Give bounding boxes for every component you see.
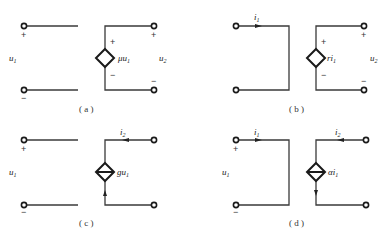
input-voltage-label: u1 — [9, 53, 17, 64]
output-voltage-label: u2 — [159, 53, 167, 64]
output-terminal-top — [363, 137, 368, 142]
panel-caption: ( c ) — [79, 218, 94, 228]
current-arrow-icon — [103, 190, 107, 196]
panel-caption: ( b ) — [289, 104, 304, 114]
source-label: gu1 — [117, 167, 129, 178]
panel-d: + − u1 i1 i2 αi1 ( d ) — [222, 127, 369, 228]
input-voltage-label: u1 — [222, 167, 230, 178]
dependent-voltage-source-icon — [96, 49, 114, 67]
output-terminal-bottom — [151, 87, 156, 92]
input-plus-sign: + — [21, 144, 26, 154]
input-terminal-top — [233, 137, 238, 142]
input-terminal-top — [21, 23, 26, 28]
output-terminal-bottom — [361, 87, 366, 92]
output-terminal-top — [151, 137, 156, 142]
source-minus-sign: − — [110, 70, 115, 80]
current-arrow-icon — [255, 24, 262, 28]
output-plus-sign: + — [151, 30, 156, 40]
source-label: αi1 — [328, 167, 338, 178]
input-plus-sign: + — [21, 30, 26, 40]
input-terminal-bottom — [233, 87, 238, 92]
input-minus-sign: − — [21, 207, 26, 217]
panel-caption: ( a ) — [79, 104, 94, 114]
output-minus-sign: − — [361, 76, 366, 86]
output-terminal-top — [361, 23, 366, 28]
current-arrow-icon — [255, 138, 262, 142]
input-current-label: i1 — [254, 127, 260, 138]
output-terminal-top — [151, 23, 156, 28]
controlled-sources-diagram: + − u1 + − μu1 + − u2 ( a ) i1 + − ri1 +… — [0, 0, 387, 242]
panel-c: + − u1 i2 gu1 ( c ) — [9, 127, 157, 228]
current-arrow-icon — [337, 138, 344, 142]
input-current-label: i1 — [254, 12, 260, 23]
output-terminal-bottom — [151, 202, 156, 207]
input-terminal-bottom — [21, 87, 26, 92]
panel-a: + − u1 + − μu1 + − u2 ( a ) — [9, 23, 167, 114]
current-arrow-icon — [122, 138, 129, 142]
input-terminal-top — [233, 23, 238, 28]
input-plus-sign: + — [233, 144, 238, 154]
panel-caption: ( d ) — [289, 218, 304, 228]
dependent-voltage-source-icon — [307, 49, 325, 67]
input-minus-sign: − — [21, 93, 26, 103]
source-minus-sign: − — [321, 70, 326, 80]
source-plus-sign: + — [321, 37, 326, 47]
output-plus-sign: + — [361, 30, 366, 40]
input-voltage-label: u1 — [9, 167, 17, 178]
output-terminal-bottom — [363, 202, 368, 207]
source-label: μu1 — [117, 53, 130, 64]
current-arrow-icon — [314, 190, 318, 196]
output-current-label: i2 — [120, 127, 126, 138]
output-voltage-label: u2 — [370, 53, 378, 64]
input-terminal-top — [21, 137, 26, 142]
output-current-label: i2 — [335, 127, 341, 138]
output-minus-sign: − — [151, 76, 156, 86]
source-plus-sign: + — [110, 37, 115, 47]
source-label: ri1 — [327, 53, 336, 64]
panel-b: i1 + − ri1 + − u2 ( b ) — [233, 12, 377, 114]
input-minus-sign: − — [233, 207, 238, 217]
